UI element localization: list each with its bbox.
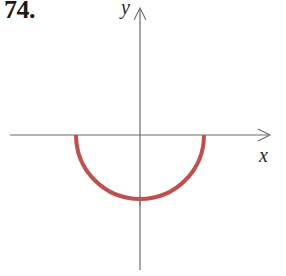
graph-canvas xyxy=(0,0,286,276)
